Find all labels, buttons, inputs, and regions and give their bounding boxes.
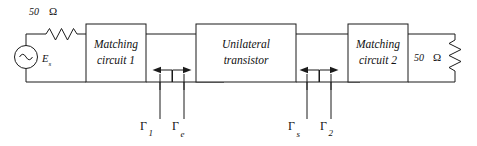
load-resistor-value: 50 — [414, 52, 424, 63]
source-label-subscript: s — [49, 60, 52, 68]
gamma-s-arrow — [300, 67, 320, 82]
load-resistor-unit: Ω — [433, 51, 441, 63]
block-matching-circuit-2-line1: Matching — [355, 38, 400, 51]
gamma-1-symbol: Γ — [140, 119, 147, 133]
block-matching-circuit-2-line2: circuit 2 — [359, 54, 397, 66]
gamma-2-arrow — [320, 67, 339, 82]
block-matching-circuit-1-line2: circuit 1 — [97, 54, 135, 66]
gamma-e-subscript: e — [181, 129, 185, 139]
circuit-diagram-canvas: Matching circuit 1 Γ 1 Γ e Unilateral tr — [0, 0, 477, 146]
gamma-e-symbol: Γ — [172, 119, 179, 133]
gamma-1-subscript: 1 — [149, 128, 154, 138]
gamma-s-symbol: Γ — [288, 119, 295, 133]
source-resistor-value: 50 — [29, 6, 39, 17]
source-resistor-zigzag — [46, 29, 86, 41]
source-top-wire — [26, 34, 46, 46]
gamma-2-symbol: Γ — [320, 119, 327, 133]
ac-source-symbol — [15, 46, 38, 69]
load-resistor-zigzag — [449, 34, 461, 82]
block-unilateral-transistor-line1: Unilateral — [222, 38, 270, 50]
block-matching-circuit-1 — [86, 24, 146, 82]
circuit-diagram-figure: Matching circuit 1 Γ 1 Γ e Unilateral tr — [0, 0, 477, 146]
gamma-1-arrow — [153, 67, 173, 82]
source-resistor-unit: Ω — [49, 5, 57, 17]
source-bottom-wire — [26, 69, 86, 83]
gamma-s-subscript: s — [297, 129, 301, 139]
block-unilateral-transistor — [196, 24, 296, 82]
block-matching-circuit-2 — [348, 24, 408, 82]
gamma-e-arrow — [173, 67, 192, 82]
gamma-2-subscript: 2 — [329, 128, 334, 138]
block-matching-circuit-1-line1: Matching — [93, 38, 138, 51]
block-unilateral-transistor-line2: transistor — [224, 54, 269, 66]
